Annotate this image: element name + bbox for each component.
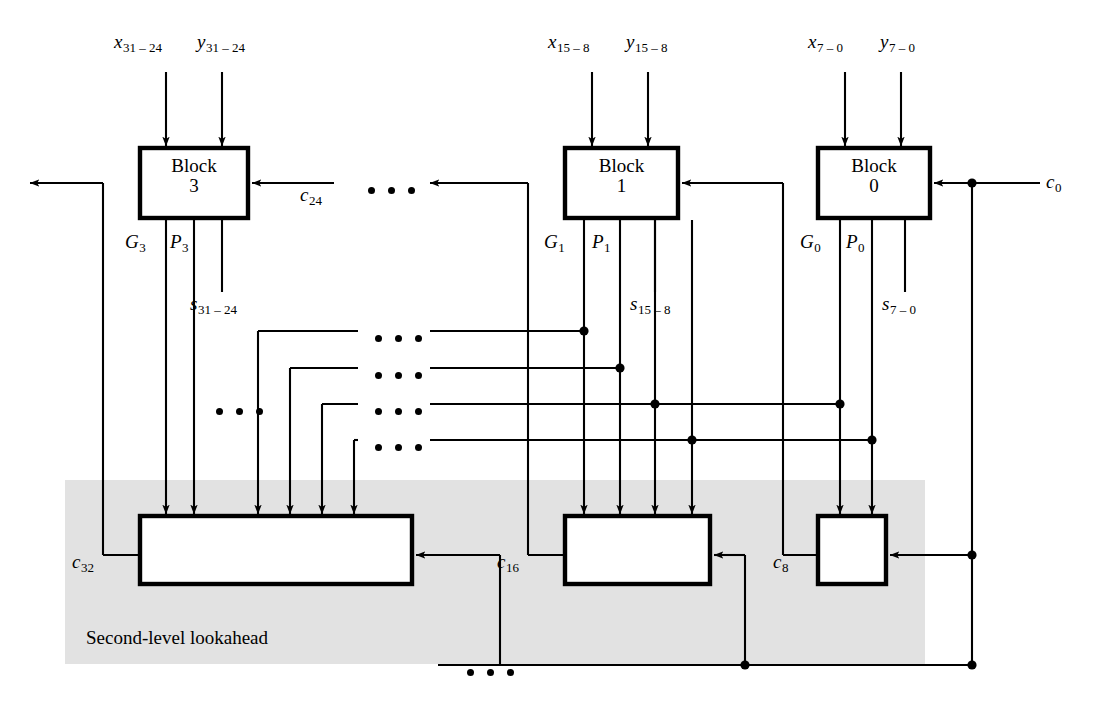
output-label-p0: P0 <box>846 232 865 254</box>
input-label-y31-24: y31 – 24 <box>197 32 245 54</box>
output-label-p3: P3 <box>170 232 189 254</box>
ellipsis-bottom-wire <box>467 662 514 680</box>
output-label-p1: P1 <box>592 232 611 254</box>
carry-label-c16: c16 <box>497 552 519 574</box>
output-label-g1: G1 <box>544 232 565 254</box>
ellipsis-left-column <box>216 401 263 419</box>
block-1-label: Block1 <box>565 156 678 196</box>
output-label-g0: G0 <box>800 232 821 254</box>
carry-label-c24: c24 <box>300 185 322 207</box>
output-label-s31-24: s31 – 24 <box>190 294 237 316</box>
ellipsis-bus-1 <box>375 328 422 346</box>
input-label-x31-24: x31 – 24 <box>114 32 162 54</box>
carry-label-c8: c8 <box>773 552 788 574</box>
block-3-label: Block3 <box>140 156 248 196</box>
carry-label-c32: c32 <box>72 552 94 574</box>
block-0-label: Block0 <box>818 156 930 196</box>
input-label-y7-0: y7 – 0 <box>880 32 915 54</box>
ellipsis-bus-2 <box>375 365 422 383</box>
ellipsis-bus-3 <box>375 401 422 419</box>
ellipsis-top-row <box>368 180 415 198</box>
ellipsis-bus-4 <box>375 437 422 455</box>
input-label-x7-0: x7 – 0 <box>808 32 843 54</box>
output-label-s7-0: s7 – 0 <box>882 294 916 316</box>
second-level-lookahead-label: Second-level lookahead <box>86 628 268 647</box>
circuit-wiring <box>0 0 1094 722</box>
figure-canvas: x31 – 24 y31 – 24 x15 – 8 y15 – 8 x7 – 0… <box>0 0 1094 722</box>
carry-label-c0: c0 <box>1046 172 1061 194</box>
input-label-y15-8: y15 – 8 <box>626 32 667 54</box>
output-label-s15-8: s15 – 8 <box>630 294 670 316</box>
output-label-g3: G3 <box>125 232 146 254</box>
input-label-x15-8: x15 – 8 <box>548 32 589 54</box>
